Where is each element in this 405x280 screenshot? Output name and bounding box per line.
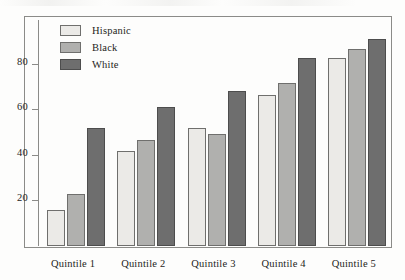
- scan-artifact: [0, 0, 405, 6]
- bar-group: [188, 20, 246, 246]
- bar-group: [117, 20, 175, 246]
- bar-hispanic-q3: [188, 128, 206, 246]
- y-tick-40: 40: [32, 155, 39, 156]
- bar-black-q3: [208, 134, 226, 246]
- y-tick-label-20: 20: [17, 192, 28, 203]
- bar-black-q4: [278, 83, 296, 246]
- bar-group: [328, 20, 386, 246]
- bar-white-q1: [87, 128, 105, 246]
- y-tick-label-60: 60: [17, 101, 28, 112]
- bar-hispanic-q4: [258, 95, 276, 246]
- y-tick-label-80: 80: [17, 56, 28, 67]
- bar-white-q4: [298, 58, 316, 246]
- bar-black-q2: [137, 140, 155, 246]
- y-tick-label-40: 40: [17, 147, 28, 158]
- x-axis-label-q1: Quintile 1: [38, 258, 108, 269]
- bar-white-q5: [368, 39, 386, 246]
- bar-white-q2: [157, 107, 175, 246]
- plot-area: 20406080 Quintile 1Quintile 2Quintile 3Q…: [38, 20, 390, 246]
- bar-white-q3: [228, 91, 246, 246]
- chart-page: Hispanic Black White 20406080 Quintile 1…: [0, 0, 405, 280]
- bar-hispanic-q1: [47, 210, 65, 246]
- bar-series-container: [39, 20, 390, 246]
- y-tick-60: 60: [32, 109, 39, 110]
- x-axis-label-q2: Quintile 2: [108, 258, 178, 269]
- bar-hispanic-q2: [117, 151, 135, 246]
- bar-black-q1: [67, 194, 85, 246]
- bar-group: [47, 20, 105, 246]
- x-axis-label-q5: Quintile 5: [319, 258, 389, 269]
- x-axis-label-q4: Quintile 4: [249, 258, 319, 269]
- bar-group: [258, 20, 316, 246]
- x-axis-label-q3: Quintile 3: [178, 258, 248, 269]
- bar-hispanic-q5: [328, 58, 346, 246]
- y-tick-20: 20: [32, 200, 39, 201]
- bar-black-q5: [348, 49, 366, 246]
- y-tick-80: 80: [32, 64, 39, 65]
